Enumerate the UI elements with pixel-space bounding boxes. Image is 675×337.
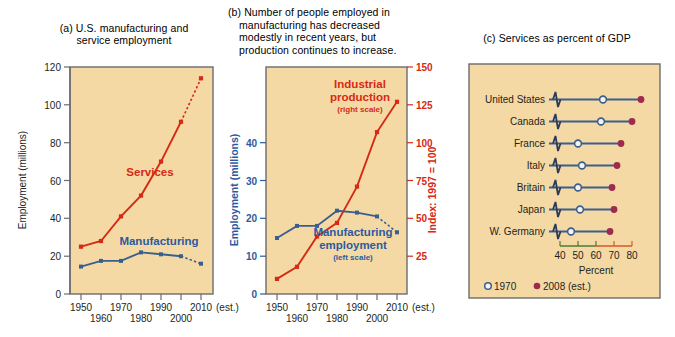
panel-b-xtick-1990: 1990	[346, 302, 369, 313]
panel-b-right-ylabel: Index: 1997 = 100	[426, 147, 438, 234]
panel-a-manufacturing-label: Manufacturing	[119, 235, 198, 247]
panel-c-marker-1970-canada	[598, 118, 605, 125]
panel-a-ytick-60: 60	[50, 176, 62, 187]
panel-a-xtick-1970: 1970	[110, 302, 133, 313]
panel-c-marker-2008-france	[618, 140, 625, 147]
panel-c-legend-2008: 2008 (est.)	[543, 281, 591, 292]
panel-c-xtick-80: 80	[626, 250, 638, 261]
panel-c-marker-2008-united-states	[638, 96, 645, 103]
panel-a-y-ticks	[64, 67, 70, 294]
panel-a-xtick-1950: 1950	[70, 302, 93, 313]
panel-b-manufacturing-employment-label-line1: Manufacturing	[313, 226, 392, 238]
panel-a-title-line1: (a) U.S. manufacturing and	[60, 22, 189, 34]
panel-b-manufacturing-employment-label-line2: employment	[319, 239, 387, 251]
panel-a-x-ticks	[81, 294, 201, 300]
panel-b-left-tick-10: 10	[246, 251, 258, 262]
panel-b-xtick-2000: 2000	[366, 313, 389, 324]
panel-c-xtick-60: 60	[590, 250, 602, 261]
panel-b-xtick-2010: 2010	[386, 302, 409, 313]
panel-b-right-tick-150: 150	[416, 62, 433, 73]
panel-b-right-ticks	[407, 67, 413, 256]
panel-c-label-japan: Japan	[518, 204, 545, 215]
panel-c-xtick-40: 40	[554, 250, 566, 261]
panel-a-ylabel: Employment (millions)	[17, 131, 28, 229]
panel-c-label-w-germany: W. Germany	[489, 226, 545, 237]
panel-c-label-britain: Britain	[517, 182, 545, 193]
panel-c-xtick-50: 50	[572, 250, 584, 261]
panel-b-svg: (b) Number of people employed in manufac…	[228, 0, 440, 337]
panel-a-container: (a) U.S. manufacturing and service emplo…	[0, 0, 228, 337]
panel-c-marker-1970-italy	[579, 162, 586, 169]
panel-b-left-tick-40: 40	[246, 138, 258, 149]
panel-b-xtick-1960: 1960	[286, 313, 309, 324]
panel-c-marker-2008-canada	[629, 118, 636, 125]
panel-c-marker-2008-w-germany	[607, 228, 614, 235]
panel-b-left-ticks	[260, 143, 266, 294]
panel-a-ytick-40: 40	[50, 213, 62, 224]
panel-c-marker-1970-united-states	[600, 96, 607, 103]
panel-a-ytick-100: 100	[44, 100, 61, 111]
panel-a-ytick-20: 20	[50, 251, 62, 262]
panel-c-marker-2008-japan	[611, 206, 618, 213]
panel-c-marker-1970-japan	[577, 206, 584, 213]
panel-c-marker-1970-france	[575, 140, 582, 147]
panel-c-xtick-70: 70	[608, 250, 620, 261]
panel-c-marker-1970-britain	[575, 184, 582, 191]
panel-b-title-line1: (b) Number of people employed in	[228, 6, 390, 18]
panel-c-label-united-states: United States	[485, 94, 545, 105]
panel-a-ytick-0: 0	[55, 289, 61, 300]
panel-b-xtick-note: (est.)	[412, 302, 435, 313]
panel-b-title-line4: production continues to increase.	[239, 44, 396, 56]
panel-b-title-line3: modestly in recent years, but	[239, 31, 376, 43]
panel-a-svg: (a) U.S. manufacturing and service emplo…	[0, 0, 228, 337]
panel-b-xtick-1950: 1950	[266, 302, 289, 313]
panel-b-industrial-production-label-line3: (right scale)	[337, 105, 383, 114]
legend-marker-2008-icon	[534, 283, 541, 290]
panel-c-label-france: France	[514, 138, 546, 149]
panel-b-x-ticks	[277, 294, 397, 300]
panel-c-title: (c) Services as percent of GDP	[483, 32, 631, 44]
panel-a-xtick-2000: 2000	[170, 313, 193, 324]
panel-b-manufacturing-employment-label-line3: (left scale)	[333, 253, 373, 262]
panel-c-legend-1970: 1970	[494, 281, 517, 292]
panel-a-title-line2: service employment	[76, 34, 171, 46]
panel-a-ytick-120: 120	[44, 62, 61, 73]
panel-b-industrial-production-label-line1: Industrial	[334, 78, 386, 90]
panel-b-container: (b) Number of people employed in manufac…	[228, 0, 440, 337]
panel-c-marker-2008-italy	[614, 162, 621, 169]
panel-b-right-tick-125: 125	[416, 100, 433, 111]
panel-c-label-canada: Canada	[510, 116, 545, 127]
panel-a-xtick-1990: 1990	[150, 302, 173, 313]
panel-b-left-tick-30: 30	[246, 176, 258, 187]
legend-marker-1970-icon	[485, 283, 492, 290]
panel-b-industrial-production-label-line2: production	[330, 91, 390, 103]
panel-a-xtick-1960: 1960	[90, 313, 113, 324]
panel-b-left-ylabel: Employment (millions)	[228, 134, 240, 247]
panel-c-label-italy: Italy	[527, 160, 545, 171]
panel-c-svg: (c) Services as percent of GDP United St…	[440, 0, 675, 337]
panel-b-xtick-1980: 1980	[326, 313, 349, 324]
panel-b-left-tick-20: 20	[246, 213, 258, 224]
panel-a-xtick-1980: 1980	[130, 313, 153, 324]
panel-a-xtick-2010: 2010	[190, 302, 213, 313]
panel-c-container: (c) Services as percent of GDP United St…	[440, 0, 675, 337]
panel-a-services-label: Services	[126, 166, 173, 178]
panel-c-marker-1970-w-germany	[568, 228, 575, 235]
panel-b-xtick-1970: 1970	[306, 302, 329, 313]
panel-c-marker-2008-britain	[609, 184, 616, 191]
panel-b-right-tick-25: 25	[416, 251, 428, 262]
panel-c-xlabel: Percent	[579, 265, 614, 276]
panel-a-ytick-80: 80	[50, 138, 62, 149]
panel-b-left-tick-0: 0	[251, 289, 257, 300]
panel-b-title-line2: manufacturing has decreased	[239, 19, 380, 31]
